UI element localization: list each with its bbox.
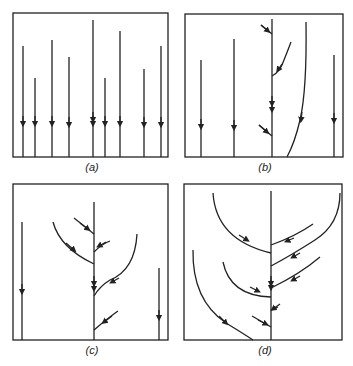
panel-b — [185, 14, 343, 157]
panel-a — [13, 13, 168, 157]
panel-d-streamlines — [193, 191, 340, 340]
panel-c-streamlines — [22, 202, 159, 340]
panel-d-frame — [184, 184, 342, 340]
panel-c-label: (c) — [86, 344, 99, 356]
panel-b-label: (b) — [258, 161, 271, 173]
panel-d-label: (d) — [258, 344, 271, 356]
panel-a-label: (a) — [85, 161, 98, 173]
panel-d — [184, 184, 342, 340]
panel-b-streamlines — [201, 19, 334, 157]
panel-c — [13, 184, 168, 340]
panel-b-frame — [185, 14, 343, 157]
figure-canvas — [0, 0, 353, 366]
panel-a-frame — [13, 13, 168, 157]
panel-a-streamlines — [23, 20, 161, 157]
